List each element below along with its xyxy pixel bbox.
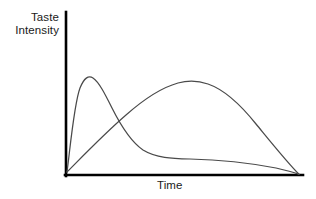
y-axis-label-line2: Intensity — [0, 24, 59, 37]
y-axis-label: Taste Intensity — [0, 11, 59, 37]
taste-intensity-chart: Taste Intensity Time — [0, 0, 316, 199]
x-axis-label: Time — [0, 179, 316, 192]
series-fast-onset-curve — [67, 77, 299, 174]
series-slow-onset-curve — [67, 81, 299, 174]
y-axis-label-line1: Taste — [0, 11, 59, 24]
